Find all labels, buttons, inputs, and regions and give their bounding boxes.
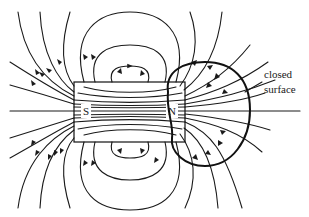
annotation-line-2: surface: [264, 83, 296, 95]
annotation-line-1: closed: [264, 68, 293, 80]
field-lines: [10, 12, 300, 210]
closed-surface: [168, 62, 250, 166]
left-upper-lines: [10, 12, 74, 104]
annotation-pointer: [245, 82, 262, 92]
diagram-canvas: S N closed surface: [0, 0, 309, 217]
annotation: closed surface: [264, 68, 296, 95]
magnetic-field-diagram: S N closed surface: [0, 0, 309, 217]
upper-loops: [80, 12, 179, 82]
lower-loops: [80, 142, 179, 210]
direction-arrows: [31, 54, 228, 166]
south-pole-label: S: [83, 105, 89, 117]
left-lower-lines: [10, 118, 74, 208]
